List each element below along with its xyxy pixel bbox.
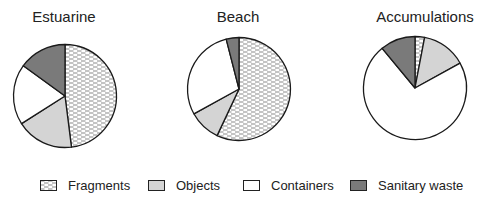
legend-label-fragments: Fragments (68, 178, 130, 193)
containers-swatch-icon (243, 180, 260, 191)
legend-label-containers: Containers (271, 178, 334, 193)
legend-item-containers: Containers (243, 178, 334, 193)
chart-title-beach: Beach (178, 8, 298, 25)
pie-estuarine (12, 43, 118, 149)
legend: Fragments Objects Containers Sanitary wa… (0, 178, 471, 198)
chart-title-accumulations: Accumulations (365, 8, 478, 25)
legend-item-fragments: Fragments (40, 178, 130, 193)
chart-title-estuarine: Estuarine (4, 8, 124, 25)
pie-accumulations (362, 35, 468, 141)
fragments-swatch-icon (40, 180, 57, 191)
legend-label-sanitary-waste: Sanitary waste (378, 178, 463, 193)
legend-label-objects: Objects (176, 178, 220, 193)
sanitary-waste-swatch-icon (350, 180, 367, 191)
legend-item-objects: Objects (148, 178, 220, 193)
pie-slice-fragments (65, 45, 117, 148)
legend-item-sanitary-waste: Sanitary waste (350, 178, 463, 193)
objects-swatch-icon (148, 180, 165, 191)
pie-beach (186, 36, 292, 142)
